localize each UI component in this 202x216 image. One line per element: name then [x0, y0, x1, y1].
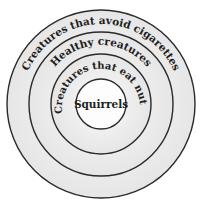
diagram-canvas: Creatures that avoid cigarettes Healthy … [0, 0, 202, 216]
nested-circles-diagram: Creatures that avoid cigarettes Healthy … [0, 0, 202, 216]
label-squirrels: Squirrels [74, 98, 128, 110]
